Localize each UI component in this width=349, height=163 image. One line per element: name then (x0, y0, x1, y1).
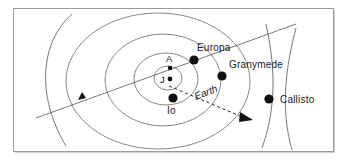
moon-granymede-dot (217, 71, 226, 80)
aux-point-dot (168, 66, 172, 70)
sight-line-group (36, 24, 296, 118)
celestial-arc-right-upper (262, 24, 273, 148)
sight-line-arrowhead-icon (78, 92, 86, 100)
celestial-arc-right-lower (285, 28, 296, 150)
moon-io-group: Io (167, 93, 178, 116)
moon-europa-dot (189, 55, 198, 64)
earth-direction-arrowhead-icon (239, 112, 253, 122)
orbit-callisto (66, 13, 250, 149)
earth-label: Earth (193, 83, 220, 102)
jupiter-label: J (160, 74, 165, 85)
moon-callisto-dot (264, 94, 273, 103)
moon-callisto-label: Callisto (280, 94, 315, 105)
earth-direction-group: Earth (169, 83, 253, 122)
moon-granymede-label: Granymede (229, 59, 283, 70)
figure-root: Earth A J Io Europa Granymede Callisto (0, 0, 349, 163)
orbit-ellipses (66, 13, 250, 149)
sight-line (36, 24, 296, 118)
moon-europa-label: Europa (197, 42, 231, 53)
moon-io-dot (168, 93, 177, 102)
moon-io-label: Io (167, 105, 176, 116)
moon-granymede-group: Granymede (217, 59, 283, 81)
jupiter-center-group: A J (160, 53, 173, 85)
celestial-arc-left (46, 14, 72, 146)
aux-point-label: A (166, 53, 173, 64)
jupiter-dot (168, 77, 173, 82)
jupiter-moons-diagram: Earth A J Io Europa Granymede Callisto (0, 0, 349, 163)
